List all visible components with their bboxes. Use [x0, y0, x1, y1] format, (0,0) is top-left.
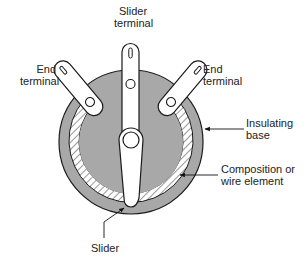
label-slider-terminal: Slider terminal: [114, 5, 152, 29]
label-element: Composition or wire element: [221, 163, 307, 187]
slider-terminal: [122, 44, 139, 141]
label-end-terminal-right: End terminal: [203, 63, 253, 87]
label-slider: Slider: [90, 242, 120, 254]
label-insulating-base: Insulating base: [246, 117, 306, 141]
label-end-terminal-left: End terminal: [20, 63, 56, 87]
